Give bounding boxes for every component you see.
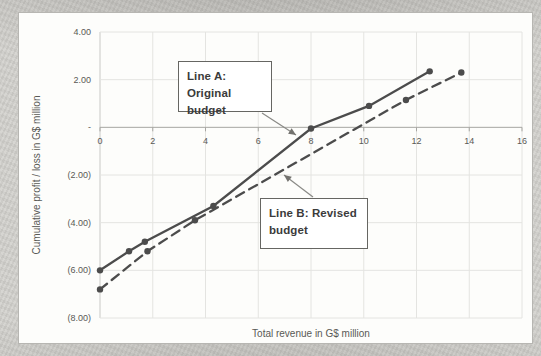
data-point-marker (308, 125, 314, 131)
series-line-b (97, 69, 465, 292)
annotation-arrow-b (284, 175, 313, 197)
annotation-line-b: Line B: Revised budget (260, 198, 368, 249)
data-point-marker (403, 97, 409, 103)
arrowhead-icon (284, 175, 292, 182)
svg-text:6: 6 (256, 136, 261, 146)
svg-text:8: 8 (308, 136, 313, 146)
data-point-marker (97, 267, 103, 273)
arrowhead-icon (288, 128, 296, 135)
annotation-line-a-text2: budget (187, 102, 271, 119)
photo-background: 02468101214164.002.00-(2.00)(4.00)(6.00)… (0, 0, 541, 356)
x-axis-title: Total revenue in G$ million (100, 328, 522, 339)
data-point-marker (142, 239, 148, 245)
data-point-marker (426, 68, 432, 74)
data-point-marker (97, 286, 103, 292)
data-point-marker (126, 248, 132, 254)
svg-text:(2.00): (2.00) (67, 170, 91, 180)
gridlines (100, 32, 522, 318)
y-tick-labels: 4.002.00-(2.00)(4.00)(6.00)(8.00) (67, 27, 91, 323)
svg-text:4.00: 4.00 (73, 27, 91, 37)
svg-text:16: 16 (517, 136, 527, 146)
svg-text:(6.00): (6.00) (67, 265, 91, 275)
annotation-line-b-text1: Line B: Revised (269, 205, 367, 222)
svg-text:2.00: 2.00 (73, 75, 91, 85)
svg-text:2: 2 (150, 136, 155, 146)
svg-text:(8.00): (8.00) (67, 313, 91, 323)
data-point-marker (144, 248, 150, 254)
annotation-line-a-text1: Line A: Original (187, 68, 271, 102)
data-point-marker (366, 103, 372, 109)
x-tick-labels: 0246810121416 (97, 136, 527, 146)
data-point-marker (458, 69, 464, 75)
svg-text:10: 10 (359, 136, 369, 146)
svg-text:12: 12 (411, 136, 421, 146)
svg-text:14: 14 (464, 136, 474, 146)
y-axis-title: Cumulative profit / loss in G$ million (31, 5, 45, 345)
svg-text:-: - (88, 122, 91, 132)
svg-text:4: 4 (203, 136, 208, 146)
annotation-line-a: Line A: Original budget (178, 61, 272, 112)
svg-text:(4.00): (4.00) (67, 218, 91, 228)
data-point-marker (192, 217, 198, 223)
svg-text:0: 0 (97, 136, 102, 146)
line-chart: 02468101214164.002.00-(2.00)(4.00)(6.00)… (0, 0, 541, 356)
annotation-line-b-text2: budget (269, 222, 367, 239)
